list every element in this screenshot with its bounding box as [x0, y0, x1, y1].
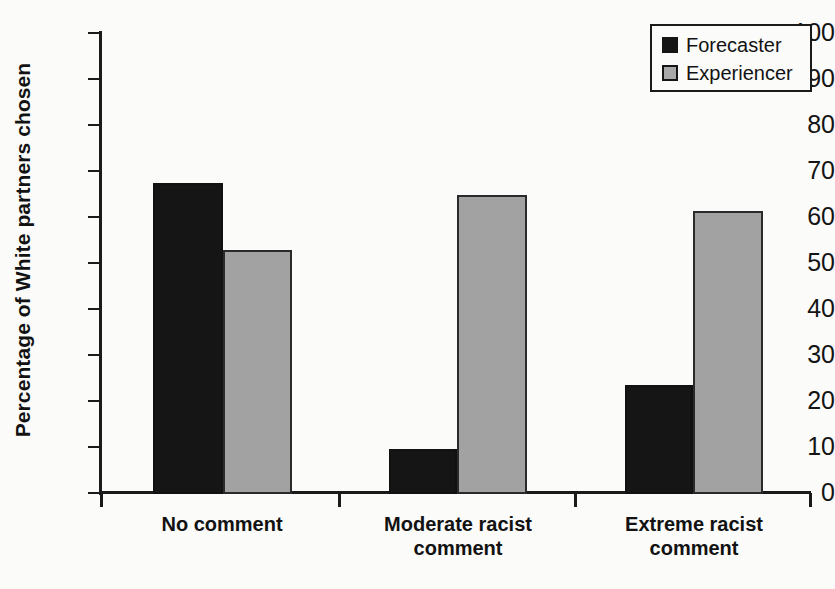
y-axis-tick-label: 60 — [751, 204, 835, 229]
legend-label-forecaster: Forecaster — [686, 35, 782, 55]
bar-experiencer-2 — [457, 195, 527, 494]
bar-experiencer-1 — [223, 250, 292, 494]
y-axis-tick-label: 30 — [751, 342, 835, 367]
category-label-1: No comment — [107, 512, 337, 536]
y-axis-tick-label: 0 — [751, 480, 835, 505]
y-axis-tick — [88, 32, 100, 34]
x-axis-tick — [809, 493, 812, 507]
x-axis-tick — [574, 493, 577, 507]
y-axis-tick-label: 20 — [751, 388, 835, 413]
category-label-3: Extreme racistcomment — [579, 512, 809, 561]
category-label-line-2: comment — [579, 536, 809, 560]
x-axis-tick — [100, 493, 103, 507]
y-axis-tick-label: 40 — [751, 296, 835, 321]
category-label-line-1: Moderate racist — [343, 512, 573, 536]
legend-item-experiencer[interactable]: Experiencer — [662, 59, 810, 87]
y-axis-title: Percentage of White partners chosen — [0, 0, 46, 500]
category-label-line-1: Extreme racist — [579, 512, 809, 536]
y-axis-tick — [88, 170, 100, 172]
category-label-2: Moderate racistcomment — [343, 512, 573, 561]
y-axis-tick-label: 80 — [751, 112, 835, 137]
bar-forecaster-1 — [153, 183, 223, 495]
y-axis-tick — [88, 216, 100, 218]
y-axis-tick-label: 10 — [751, 434, 835, 459]
y-axis-tick-label: 70 — [751, 158, 835, 183]
legend-label-experiencer: Experiencer — [686, 63, 793, 83]
y-axis-tick — [88, 492, 100, 494]
y-axis-tick — [88, 400, 100, 402]
y-axis-tick — [88, 262, 100, 264]
black-square-icon — [662, 37, 678, 53]
bar-chart: Percentage of White partners chosen 1009… — [0, 0, 835, 589]
y-axis-tick — [88, 308, 100, 310]
y-axis-tick — [88, 78, 100, 80]
y-axis-tick — [88, 354, 100, 356]
legend-item-forecaster[interactable]: Forecaster — [662, 31, 810, 59]
y-axis-tick — [88, 124, 100, 126]
gray-square-icon — [662, 65, 678, 81]
x-axis-tick — [338, 493, 341, 507]
legend: Forecaster Experiencer — [650, 24, 812, 92]
y-axis-title-text: Percentage of White partners chosen — [11, 63, 35, 438]
bar-forecaster-3 — [625, 385, 693, 494]
bar-forecaster-2 — [389, 449, 457, 494]
category-label-line-1: No comment — [107, 512, 337, 536]
y-axis-tick — [88, 446, 100, 448]
y-axis-tick-label: 50 — [751, 250, 835, 275]
category-label-line-2: comment — [343, 536, 573, 560]
bar-experiencer-3 — [693, 211, 763, 494]
